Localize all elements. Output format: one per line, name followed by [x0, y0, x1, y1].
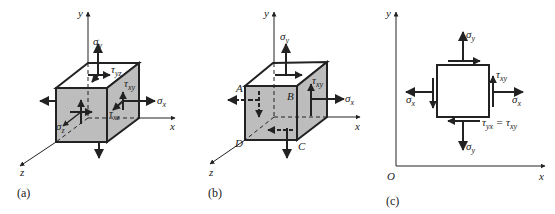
panel-c-caption: (c) — [386, 194, 399, 208]
origin-label: O — [387, 170, 395, 182]
corner-c-label: C — [298, 140, 306, 152]
sigma-y-label: σy — [93, 35, 102, 50]
sigma-y-label: σy — [280, 30, 289, 45]
corner-b-label: B — [287, 90, 294, 102]
stress-element-square — [437, 65, 489, 117]
corner-a-label: A — [235, 82, 243, 94]
panel-b: y x z A B C D σy τxy σx (b) — [208, 7, 360, 200]
sigma-x-label: σx — [345, 92, 354, 107]
y-axis-label: y — [263, 7, 269, 19]
x-axis-label: x — [538, 170, 544, 182]
z-axis-label: z — [208, 166, 214, 178]
tau-xy-label: τxy — [496, 68, 507, 83]
stress-element-figure: y x z σy τyz τxy σx τxz σz (a) y x z A — [0, 0, 555, 214]
sigma-x-left-label: σx — [406, 93, 415, 108]
sigma-x-label: σx — [157, 94, 166, 109]
x-axis-label: x — [354, 120, 360, 132]
corner-d-label: D — [234, 137, 243, 149]
tau-equality-label: τyx = τxy — [482, 116, 517, 131]
sigma-x-right-label: σx — [512, 93, 521, 108]
y-axis-label: y — [385, 7, 391, 19]
panel-c: y x O σy σy σx σx τxy τyx = τxy (c) — [385, 7, 545, 208]
y-axis-label: y — [77, 7, 83, 19]
panel-a-caption: (a) — [17, 186, 30, 200]
sigma-y-top-label: σy — [466, 28, 475, 43]
sigma-y-bottom-label: σy — [466, 140, 475, 155]
panel-a: y x z σy τyz τxy σx τxz σz (a) — [17, 7, 175, 200]
panel-b-caption: (b) — [208, 186, 222, 200]
z-axis-label: z — [19, 166, 25, 178]
figure-canvas: y x z σy τyz τxy σx τxz σz (a) y x z A — [0, 0, 555, 214]
x-axis-label: x — [169, 120, 175, 132]
z-axis — [20, 142, 56, 166]
